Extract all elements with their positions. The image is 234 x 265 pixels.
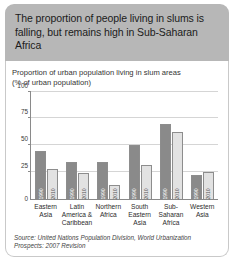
category-label-line: Eastern: [30, 203, 61, 211]
bar-year-label: 1990: [69, 188, 75, 199]
bar-2010-3[interactable]: 2010: [141, 165, 152, 198]
bar-2010-2[interactable]: 2010: [109, 185, 120, 199]
bar-group-latin-america-caribbean: 19902010: [62, 92, 93, 199]
bar-1990-0[interactable]: 1990: [35, 151, 46, 198]
bar-2010-1[interactable]: 2010: [78, 173, 89, 199]
bar-year-label: 2010: [81, 188, 87, 199]
category-label-line: America &: [61, 211, 92, 219]
bar-2010-5[interactable]: 2010: [203, 172, 214, 199]
page-title: The proportion of people living in slums…: [15, 12, 220, 53]
bar-1990-4[interactable]: 1990: [160, 124, 171, 199]
bar-year-label: 2010: [112, 188, 118, 199]
category-label-1: LatinAmerica &Caribbean: [61, 203, 92, 227]
bar-group-south-eastern-asia: 19902010: [125, 92, 156, 199]
plot-area: 100755025 0 1990201019902010199020101990…: [30, 92, 218, 200]
bar-1990-3[interactable]: 1990: [129, 145, 140, 199]
y-axis-zero-label: 0: [24, 195, 28, 202]
bar-year-label: 2010: [174, 188, 180, 199]
category-label-line: Asia: [187, 211, 218, 219]
category-label-line: Africa: [93, 211, 124, 219]
category-label-line: Caribbean: [61, 219, 92, 227]
chart-title: Proportion of urban population living in…: [12, 68, 222, 78]
category-label-line: Eastern: [124, 211, 155, 219]
slum-population-figure: The proportion of people living in slums…: [0, 0, 234, 265]
y-tick-label-25: 25: [21, 161, 28, 168]
bar-group-northern-africa: 19902010: [93, 92, 124, 199]
category-label-line: Northern: [93, 203, 124, 211]
category-label-3: SouthEasternAsia: [124, 203, 155, 227]
category-label-line: Sub-: [155, 203, 186, 211]
category-label-line: Asia: [30, 211, 61, 219]
bar-group-sub-saharan-africa: 19902010: [156, 92, 187, 199]
bar-year-label: 2010: [205, 188, 211, 199]
category-label-5: WesternAsia: [187, 203, 218, 227]
category-label-4: Sub-SaharanAfrica: [155, 203, 186, 227]
bar-groups: 1990201019902010199020101990201019902010…: [31, 92, 218, 199]
bar-2010-4[interactable]: 2010: [172, 132, 183, 198]
category-label-line: South: [124, 203, 155, 211]
chart-units-label: (% of urban population): [12, 78, 222, 88]
bar-year-label: 2010: [143, 188, 149, 199]
category-label-line: Saharan: [155, 211, 186, 219]
header-banner: The proportion of people living in slums…: [5, 4, 229, 61]
bar-year-label: 1990: [100, 188, 106, 199]
source-line-2: Prospects: 2007 Revision: [14, 242, 220, 251]
category-label-line: Western: [187, 203, 218, 211]
category-label-2: NorthernAfrica: [93, 203, 124, 227]
bar-year-label: 1990: [38, 188, 44, 199]
bar-2010-0[interactable]: 2010: [47, 169, 58, 199]
category-label-line: Latin: [61, 203, 92, 211]
y-tick-label-50: 50: [21, 135, 28, 142]
bar-1990-2[interactable]: 1990: [97, 162, 108, 198]
bar-year-label: 1990: [131, 188, 137, 199]
chart-subtitle-block: Proportion of urban population living in…: [12, 68, 222, 88]
bar-year-label: 2010: [50, 188, 56, 199]
category-label-line: Asia: [124, 219, 155, 227]
source-note: Source: United Nations Population Divisi…: [14, 234, 220, 251]
bar-group-eastern-asia: 19902010: [31, 92, 62, 199]
category-label-line: Africa: [155, 219, 186, 227]
source-line-1: Source: United Nations Population Divisi…: [14, 234, 220, 243]
x-axis-category-labels: EasternAsiaLatinAmerica &CaribbeanNorthe…: [30, 203, 218, 227]
bar-year-label: 1990: [193, 188, 199, 199]
bar-year-label: 1990: [162, 188, 168, 199]
chart-panel: Proportion of urban population living in…: [5, 61, 229, 257]
category-label-0: EasternAsia: [30, 203, 61, 227]
bar-1990-5[interactable]: 1990: [191, 175, 202, 199]
y-tick-label-75: 75: [21, 108, 28, 115]
y-tick-label-100: 100: [17, 81, 28, 88]
bar-1990-1[interactable]: 1990: [66, 162, 77, 198]
bar-group-western-asia: 19902010: [187, 92, 218, 199]
